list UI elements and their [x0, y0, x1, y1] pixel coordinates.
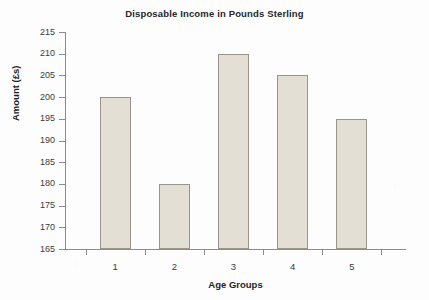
chart-title: Disposable Income in Pounds Sterling [0, 8, 429, 19]
bar-4 [277, 75, 308, 249]
x-tick-boundary-3 [263, 249, 264, 255]
bar-2 [159, 184, 190, 249]
y-tick-label-190: 190 [27, 136, 55, 145]
chart-screenshot: Disposable Income in Pounds Sterling Amo… [0, 0, 429, 300]
x-tick-label-2: 2 [154, 261, 194, 272]
x-axis-title: Age Groups [65, 279, 406, 290]
y-axis-title: Amount (£s) [10, 105, 21, 121]
y-tick-label-175: 175 [27, 201, 55, 210]
x-tick-boundary-0 [86, 249, 87, 255]
y-tick-label-205: 205 [27, 71, 55, 80]
x-tick-boundary-2 [204, 249, 205, 255]
x-tick-boundary-1 [145, 249, 146, 255]
y-tick-label-185: 185 [27, 158, 55, 167]
y-tick-label-195: 195 [27, 114, 55, 123]
plot-area [65, 32, 405, 249]
x-tick-label-3: 3 [214, 261, 254, 272]
x-tick-boundary-5 [381, 249, 382, 255]
x-tick-label-4: 4 [273, 261, 313, 272]
y-tick-label-200: 200 [27, 93, 55, 102]
y-tick-label-210: 210 [27, 49, 55, 58]
bar-3 [218, 54, 249, 249]
x-tick-label-1: 1 [95, 261, 135, 272]
bar-5 [336, 119, 367, 249]
y-tick-label-165: 165 [27, 245, 55, 254]
bar-1 [100, 97, 131, 249]
x-tick-boundary-4 [322, 249, 323, 255]
y-tick-label-180: 180 [27, 179, 55, 188]
x-axis-line [65, 249, 406, 250]
y-tick-label-170: 170 [27, 223, 55, 232]
y-tick-165 [59, 249, 65, 250]
x-tick-label-5: 5 [332, 261, 372, 272]
y-tick-label-215: 215 [27, 28, 55, 37]
